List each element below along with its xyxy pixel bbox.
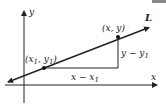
y-axis-label: y	[28, 7, 35, 17]
point2-label: (x, y)	[102, 23, 125, 33]
diagram-canvas: y x L (x1, y1) (x, y) x − x1 y − y1	[0, 0, 166, 109]
corner-bar	[152, 0, 166, 3]
x-axis-label: x	[151, 72, 156, 82]
point-x-y	[116, 35, 120, 39]
point-x1-y1	[42, 66, 46, 70]
point1-label: (x1, y1)	[25, 54, 57, 66]
rise-label: y − y1	[120, 48, 149, 60]
line-label: L	[144, 12, 152, 23]
run-label: x − x1	[71, 72, 99, 84]
